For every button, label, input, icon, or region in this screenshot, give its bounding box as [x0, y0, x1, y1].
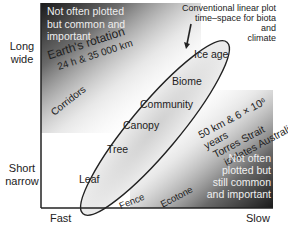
br-line2: plotted but	[200, 164, 271, 176]
y-bottom-line2: narrow	[5, 175, 39, 188]
callout-note: Conventional linear plot time–space for …	[180, 3, 276, 43]
y-axis-top-label: Long wide	[7, 40, 37, 66]
br-line3: still common	[200, 176, 271, 188]
ellipse-item-biome: Biome	[172, 75, 202, 88]
callout-line1: Conventional linear plot	[180, 3, 276, 13]
y-axis-bottom-label: Short narrow	[5, 162, 39, 188]
ellipse-item-community: Community	[140, 98, 193, 111]
y-bottom-line1: Short	[5, 162, 39, 175]
br-line4: and important	[200, 188, 271, 200]
tl-line1: Not often plotted	[47, 5, 125, 18]
y-top-line2: wide	[7, 53, 37, 66]
bottom-right-corner-note: Not often plotted but still common and i…	[200, 152, 271, 200]
ellipse-item-leaf: Leaf	[79, 173, 99, 186]
callout-line3: climate	[180, 33, 276, 43]
x-axis-right-label: Slow	[246, 212, 270, 225]
y-top-line1: Long	[7, 40, 37, 53]
x-axis-left-label: Fast	[50, 212, 71, 225]
ellipse-item-ice-age: Ice age	[194, 48, 228, 61]
ellipse-item-tree: Tree	[107, 143, 128, 156]
br-line1: Not often	[200, 152, 271, 164]
callout-line2: time–space for biota and	[180, 13, 276, 33]
ellipse-item-canopy: Canopy	[123, 119, 159, 132]
